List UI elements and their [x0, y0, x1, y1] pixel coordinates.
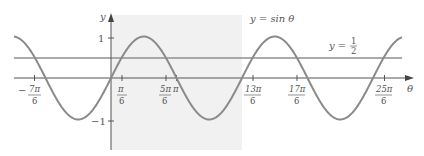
sine-chart: y 1 −1 θ y = sin θ y = 1 2 − 7π 6 π 6 5π…: [0, 0, 424, 156]
svg-text:6: 6: [32, 96, 37, 106]
svg-text:25π: 25π: [375, 84, 393, 94]
shaded-interval-0-2pi: [111, 15, 242, 150]
half-annotation-prefix: y =: [328, 40, 346, 51]
y-tick-label-1: 1: [98, 33, 104, 44]
x-axis-label: θ: [407, 83, 413, 94]
y-tick-label-neg1: −1: [91, 116, 106, 127]
svg-text:6: 6: [250, 96, 255, 106]
svg-text:7π: 7π: [29, 84, 40, 94]
x-axis-arrow-icon: [405, 75, 414, 81]
svg-text:6: 6: [162, 96, 167, 106]
svg-text:π: π: [117, 84, 124, 94]
svg-text:6: 6: [294, 96, 299, 106]
svg-text:π: π: [172, 84, 179, 94]
svg-text:17π: 17π: [289, 84, 306, 94]
tick-label-25pi-6: 25π 6: [375, 84, 393, 106]
half-annotation-den: 2: [351, 46, 356, 56]
svg-text:−: −: [18, 85, 26, 96]
svg-text:13π: 13π: [245, 84, 262, 94]
tick-label-13pi-6: 13π 6: [244, 84, 262, 106]
tick-label-neg-7pi-6: − 7π 6: [18, 84, 41, 106]
svg-text:5π: 5π: [160, 84, 171, 94]
tick-label-17pi-6: 17π 6: [288, 84, 306, 106]
sin-annotation: y = sin θ: [249, 13, 294, 24]
svg-text:6: 6: [381, 96, 386, 106]
y-axis-label: y: [99, 11, 106, 22]
half-annotation-num: 1: [351, 36, 356, 46]
svg-text:6: 6: [119, 96, 124, 106]
